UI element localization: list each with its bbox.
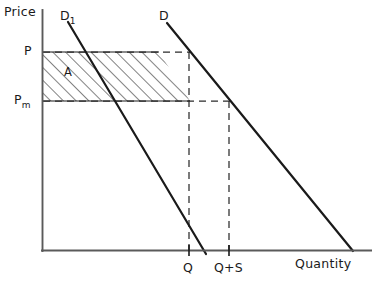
x-tick-label-q-plus-s: Q+S bbox=[214, 262, 243, 275]
y-axis-title: Price bbox=[4, 6, 36, 19]
y-tick-label-p-text: P bbox=[24, 43, 32, 58]
y-tick-label-pm: Pm bbox=[14, 94, 31, 110]
x-axis-title: Quantity bbox=[295, 258, 351, 271]
diagram-canvas bbox=[0, 0, 372, 283]
curve-label-d: D bbox=[159, 10, 169, 23]
y-tick-label-pm-subscript: m bbox=[22, 100, 31, 110]
curve-label-d1-text: D bbox=[60, 8, 70, 23]
y-tick-label-p: P bbox=[24, 45, 32, 58]
economics-diagram: Price Quantity P Pm Q Q+S D1 D A bbox=[0, 0, 372, 283]
demand-curve-d-line bbox=[167, 23, 353, 251]
y-tick-label-pm-text: P bbox=[14, 92, 22, 107]
shaded-area-label-a: A bbox=[64, 67, 72, 79]
curve-label-d1: D1 bbox=[60, 10, 76, 26]
curve-label-d1-subscript: 1 bbox=[70, 16, 76, 26]
x-tick-label-q: Q bbox=[183, 262, 193, 275]
